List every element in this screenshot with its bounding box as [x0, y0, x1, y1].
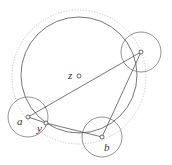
label-y: y — [36, 122, 42, 134]
point-b — [100, 135, 104, 139]
point-y — [44, 121, 48, 125]
label-a: a — [17, 115, 23, 127]
label-z: z — [67, 69, 73, 81]
point-a — [26, 115, 30, 119]
label-b: b — [104, 141, 110, 153]
segment-a-c — [28, 52, 141, 117]
diagram-canvas: z a y b — [0, 0, 172, 165]
point-c — [139, 50, 143, 54]
point-z — [77, 74, 81, 78]
segment-y-b — [46, 123, 102, 137]
segment-c-b — [102, 52, 141, 137]
